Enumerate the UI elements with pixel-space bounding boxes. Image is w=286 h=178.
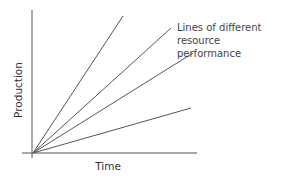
annotation: Lines of different resource performance xyxy=(177,21,286,60)
performance-line-1 xyxy=(33,16,123,153)
y-axis-label: Production xyxy=(12,62,24,118)
x-axis-label: Time xyxy=(95,160,121,172)
performance-line-2 xyxy=(33,28,171,153)
performance-line-3 xyxy=(33,53,193,153)
annotation-line-1: Lines of different xyxy=(177,21,286,34)
annotation-line-2: resource performance xyxy=(177,34,286,60)
performance-line-4 xyxy=(33,108,191,153)
